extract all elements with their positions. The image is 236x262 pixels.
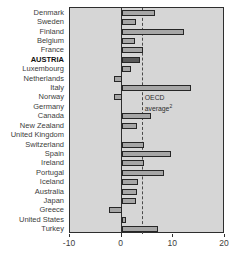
category-label-portugal: Portugal [0,168,64,177]
category-label-germany: Germany [0,102,64,111]
category-label-denmark: Denmark [0,8,64,17]
category-label-japan: Japan [0,196,64,205]
bar-luxembourg [122,66,131,72]
category-label-united-states: United States [0,215,64,224]
category-label-ireland: Ireland [0,158,64,167]
x-tick-label-10: 10 [168,238,177,248]
bar-switzerland [122,142,144,148]
oecd-average-label: OECDaverage2 [145,94,172,113]
plot-area: OECDaverage2 [69,7,224,233]
bar-ireland [122,160,145,166]
category-label-austria: AUSTRIA [0,55,64,64]
bar-finland [122,29,185,35]
x-tick--10 [69,234,70,237]
oecd-average-line [142,8,143,234]
category-label-italy: Italy [0,83,64,92]
category-label-switzerland: Switzerland [0,140,64,149]
category-label-sweden: Sweden [0,17,64,26]
bar-austria [122,57,141,63]
category-label-turkey: Turkey [0,224,64,233]
x-tick-label-20: 20 [219,238,228,248]
x-tick-20 [224,234,225,237]
bar-portugal [122,170,164,176]
x-tick-label-0: 0 [118,238,123,248]
category-label-united-kingdom: United Kingdom [0,130,64,139]
category-label-new-zealand: New Zealand [0,121,64,130]
x-tick-label--10: -10 [63,238,75,248]
x-tick-0 [121,234,122,237]
bar-united-states [122,217,126,223]
category-label-spain: Spain [0,149,64,158]
bar-turkey [122,226,159,232]
bar-greece [109,207,122,213]
bar-iceland [122,179,138,185]
category-label-netherlands: Netherlands [0,74,64,83]
category-label-norway: Norway [0,92,64,101]
category-label-australia: Australia [0,187,64,196]
category-label-france: France [0,45,64,54]
bar-new-zealand [122,123,137,129]
bar-japan [122,198,136,204]
bar-france [122,47,143,53]
category-label-greece: Greece [0,205,64,214]
bar-italy [122,85,191,91]
bar-spain [122,151,172,157]
category-label-iceland: Iceland [0,177,64,186]
category-label-belgium: Belgium [0,36,64,45]
bar-sweden [122,19,136,25]
category-label-finland: Finland [0,27,64,36]
bar-canada [122,113,151,119]
bar-netherlands [114,76,122,82]
category-label-canada: Canada [0,111,64,120]
x-tick-10 [172,234,173,237]
net-migration-bar-chart: OECDaverage2 DenmarkSwedenFinlandBelgium… [0,0,236,262]
bar-belgium [122,38,135,44]
bar-denmark [122,10,156,16]
category-label-luxembourg: Luxembourg [0,64,64,73]
bar-australia [122,189,138,195]
bar-norway [114,94,122,100]
